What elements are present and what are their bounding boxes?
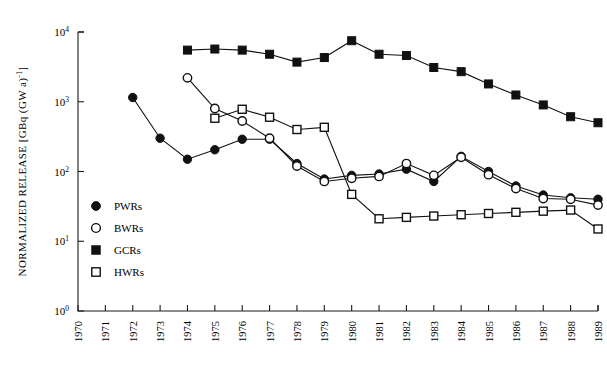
legend-item-gcrs: GCRs bbox=[92, 244, 141, 256]
x-tick-label: 1987 bbox=[538, 321, 549, 342]
x-tick-label: 1976 bbox=[237, 321, 248, 342]
legend-item-hwrs: HWRs bbox=[92, 266, 144, 278]
x-tick-label: 1986 bbox=[511, 321, 522, 342]
x-tick-label: 1971 bbox=[100, 321, 111, 342]
legend-item-bwrs: BWRs bbox=[92, 222, 144, 234]
legend-item-pwrs: PWRs bbox=[92, 200, 143, 212]
x-tick-label: 1975 bbox=[210, 321, 221, 342]
chart-axes bbox=[78, 32, 598, 311]
y-tick-label: 104 bbox=[54, 25, 69, 39]
chart-legend: PWRsBWRsGCRsHWRs bbox=[92, 200, 144, 278]
y-tick-label: 101 bbox=[54, 234, 69, 248]
x-tick-label: 1989 bbox=[593, 321, 604, 342]
x-tick-label: 1978 bbox=[292, 321, 303, 342]
x-tick-label: 1973 bbox=[155, 321, 166, 342]
x-tick-label: 1970 bbox=[73, 321, 84, 342]
series-pwrs bbox=[129, 93, 603, 203]
y-tick-label: 103 bbox=[54, 94, 69, 108]
y-axis-title: NORMALIZED RELEASE [GBq (GW a)-1] bbox=[15, 67, 30, 277]
x-tick-label: 1983 bbox=[429, 321, 440, 342]
y-axis-title-text: NORMALIZED RELEASE [GBq (GW a)-1] bbox=[15, 67, 30, 277]
legend-label: BWRs bbox=[114, 222, 143, 234]
y-tick-label: 102 bbox=[54, 164, 69, 178]
y-axis-ticks: 100101102103104 bbox=[54, 25, 84, 318]
x-tick-label: 1982 bbox=[401, 321, 412, 342]
x-tick-label: 1984 bbox=[456, 320, 467, 342]
y-tick-label: 100 bbox=[54, 304, 69, 318]
x-tick-label: 1988 bbox=[566, 321, 577, 342]
normalized-release-chart: 100101102103104 197019711972197319741975… bbox=[0, 0, 607, 375]
x-tick-label: 1972 bbox=[128, 321, 139, 342]
legend-label: GCRs bbox=[114, 244, 141, 256]
legend-label: PWRs bbox=[114, 200, 142, 212]
legend-label: HWRs bbox=[114, 266, 144, 278]
x-tick-label: 1981 bbox=[374, 321, 385, 342]
x-tick-label: 1977 bbox=[265, 321, 276, 342]
x-tick-label: 1985 bbox=[484, 321, 495, 342]
plot-series-group bbox=[129, 37, 603, 233]
x-tick-label: 1980 bbox=[347, 321, 358, 342]
chart-figure: 100101102103104 197019711972197319741975… bbox=[0, 0, 607, 375]
x-tick-label: 1974 bbox=[182, 320, 193, 342]
x-tick-label: 1979 bbox=[319, 321, 330, 342]
